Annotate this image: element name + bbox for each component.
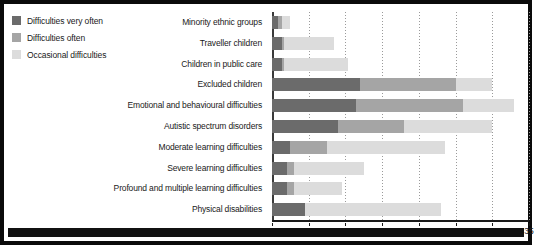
gridline (529, 12, 530, 220)
category-label: Profound and multiple learning difficult… (114, 183, 262, 193)
bar-segment (356, 99, 462, 112)
bar-segment (327, 141, 444, 154)
bar-group (272, 203, 529, 216)
bottom-edge-band (8, 228, 524, 237)
bar-segment (294, 182, 342, 195)
bar-segment (463, 99, 514, 112)
bar-segment (294, 162, 364, 175)
legend-swatch-icon (12, 16, 21, 25)
bar-segment (272, 58, 282, 71)
plot-area (270, 12, 529, 220)
bar-segment (272, 162, 287, 175)
bar-group (272, 162, 529, 175)
bar-segment (404, 120, 492, 133)
category-label: Children in public care (181, 59, 262, 69)
bar-segment (287, 162, 294, 175)
bar-segment (287, 182, 294, 195)
bar-group (272, 182, 529, 195)
bar-segment (272, 203, 305, 216)
bar-segment (284, 37, 334, 50)
bar-segment (284, 58, 347, 71)
bar-segment (272, 120, 338, 133)
category-label: Emotional and behavioural difficulties (128, 100, 262, 110)
category-label: Traveller children (200, 38, 262, 48)
legend-swatch-icon (12, 33, 21, 42)
bar-segment (282, 16, 290, 29)
bar-group (272, 99, 529, 112)
bar-segment (456, 78, 493, 91)
category-label: Excluded children (197, 79, 262, 89)
legend-item-label: Difficulties often (27, 33, 85, 43)
bar-segment (290, 141, 327, 154)
bar-segment (272, 182, 287, 195)
bar-segment (272, 78, 360, 91)
bar-group (272, 78, 529, 91)
bar-segment (272, 99, 356, 112)
x-tick-label: 35 (524, 226, 533, 236)
x-axis-line (272, 220, 529, 222)
category-label: Severe learning difficulties (167, 163, 262, 173)
category-label: Autistic spectrum disorders (164, 121, 262, 131)
bar-segment (305, 203, 441, 216)
bar-segment (360, 78, 455, 91)
bar-group (272, 16, 529, 29)
bar-group (272, 141, 529, 154)
category-label: Moderate learning difficulties (158, 142, 262, 152)
category-label: Physical disabilities (192, 204, 262, 214)
bar-group (272, 58, 529, 71)
plot-inner (272, 12, 529, 220)
bar-segment (272, 141, 290, 154)
category-label: Minority ethnic groups (182, 17, 262, 27)
bar-segment (272, 37, 282, 50)
legend-swatch-icon (12, 50, 21, 59)
bar-group (272, 120, 529, 133)
bar-group (272, 37, 529, 50)
category-axis-labels: Minority ethnic groupsTraveller children… (90, 12, 266, 220)
bar-segment (338, 120, 404, 133)
